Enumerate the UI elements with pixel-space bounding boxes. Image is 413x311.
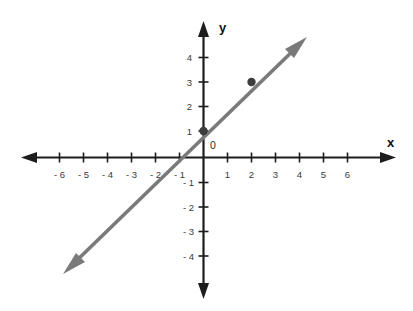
x-tick-label: - 5 [78,169,89,180]
y-axis-bottom-arrowhead [198,283,209,299]
x-tick-label: 4 [297,169,302,180]
x-axis-label: x [387,135,395,150]
coordinate-plane-figure: - 6 - 5 - 4 - 3 - 2 - 1 1 2 3 4 5 6 4 3 … [0,0,413,311]
x-tick-label: - 3 [126,169,137,180]
y-tick-label: 1 [187,126,192,137]
x-axis-right-arrowhead [380,152,396,163]
x-tick-label: 6 [345,169,350,180]
line-series-y-equals-x-plus-1 [63,37,307,274]
y-axis-label: y [219,20,227,35]
x-tick-label: 3 [273,169,278,180]
x-tick-label: 5 [321,169,326,180]
graph-canvas: - 6 - 5 - 4 - 3 - 2 - 1 1 2 3 4 5 6 4 3 … [0,0,413,311]
y-tick-label: 2 [187,101,192,112]
y-tick-label: - 2 [183,202,194,213]
y-tick-label: - 1 [183,177,194,188]
data-point-2-3 [247,78,255,86]
y-tick-label: - 3 [183,226,194,237]
x-axis-left-arrowhead [21,152,37,163]
data-point-y-intercept [199,127,207,135]
y-tick-label: 3 [187,77,192,88]
y-axis-top-arrowhead [198,21,209,37]
origin-label: 0 [210,139,216,151]
y-tick-label: 4 [187,52,192,63]
x-tick-labels: - 6 - 5 - 4 - 3 - 2 - 1 1 2 3 4 5 6 [54,169,350,180]
y-tick-label: - 4 [183,251,194,262]
x-tick-label: - 6 [54,169,65,180]
x-tick-label: - 4 [102,169,113,180]
x-tick-label: 1 [225,169,230,180]
x-tick-label: 2 [249,169,254,180]
